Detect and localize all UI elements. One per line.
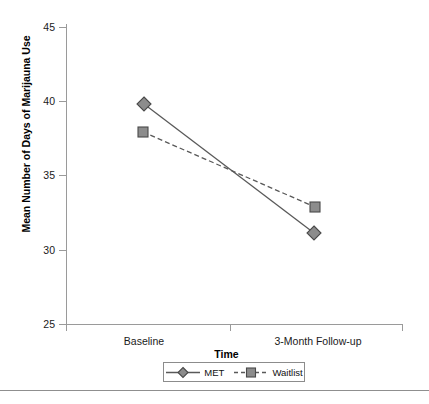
series-waitlist-marker-baseline	[138, 127, 148, 137]
figure-root: 45 40 35 30 25 Baseline 3-Month Follow-u…	[0, 0, 429, 404]
legend-label-met: MET	[204, 367, 224, 378]
legend-swatch-met	[165, 366, 201, 379]
series-met	[137, 97, 321, 240]
series-met-marker-baseline	[137, 97, 151, 111]
legend: MET Waitlist	[163, 362, 305, 382]
series-waitlist-line	[143, 132, 315, 207]
series-layer	[0, 0, 429, 404]
legend-entry-met[interactable]: MET	[165, 366, 224, 379]
legend-entry-waitlist[interactable]: Waitlist	[233, 366, 302, 379]
series-met-marker-3-month-follow-up	[307, 226, 321, 240]
series-met-line	[144, 104, 314, 233]
legend-label-waitlist: Waitlist	[272, 367, 302, 378]
legend-inner: MET Waitlist	[164, 363, 304, 381]
series-waitlist	[138, 127, 320, 212]
series-waitlist-marker-3-month-follow-up	[310, 202, 320, 212]
legend-swatch-waitlist	[233, 366, 269, 379]
bottom-rule	[0, 390, 429, 391]
